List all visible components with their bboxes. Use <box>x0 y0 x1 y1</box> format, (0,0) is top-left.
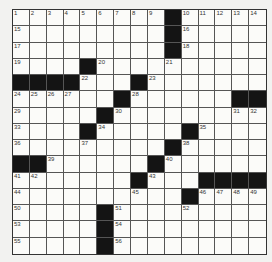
grid-cell[interactable]: 31 <box>232 108 249 124</box>
grid-cell[interactable]: 27 <box>64 91 81 107</box>
grid-cell[interactable]: 47 <box>215 189 232 205</box>
grid-cell[interactable] <box>215 124 232 140</box>
grid-cell[interactable] <box>148 43 165 59</box>
grid-cell[interactable] <box>30 205 47 221</box>
grid-cell[interactable] <box>148 124 165 140</box>
grid-cell[interactable] <box>182 156 199 172</box>
grid-cell[interactable] <box>232 26 249 42</box>
grid-cell[interactable]: 11 <box>199 10 216 26</box>
grid-cell[interactable]: 2 <box>30 10 47 26</box>
grid-cell[interactable] <box>249 75 266 91</box>
grid-cell[interactable]: 1 <box>13 10 30 26</box>
grid-cell[interactable]: 13 <box>232 10 249 26</box>
grid-cell[interactable] <box>114 75 131 91</box>
grid-cell[interactable] <box>47 26 64 42</box>
grid-cell[interactable] <box>97 140 114 156</box>
grid-cell[interactable] <box>47 205 64 221</box>
grid-cell[interactable]: 3 <box>47 10 64 26</box>
grid-cell[interactable]: 44 <box>13 189 30 205</box>
grid-cell[interactable] <box>165 238 182 254</box>
grid-cell[interactable] <box>249 221 266 237</box>
grid-cell[interactable]: 28 <box>131 91 148 107</box>
grid-cell[interactable] <box>131 221 148 237</box>
grid-cell[interactable] <box>64 189 81 205</box>
grid-cell[interactable]: 9 <box>148 10 165 26</box>
grid-cell[interactable] <box>64 205 81 221</box>
grid-cell[interactable] <box>215 156 232 172</box>
grid-cell[interactable] <box>199 238 216 254</box>
grid-cell[interactable]: 51 <box>114 205 131 221</box>
grid-cell[interactable] <box>182 75 199 91</box>
grid-cell[interactable]: 56 <box>114 238 131 254</box>
grid-cell[interactable] <box>30 26 47 42</box>
grid-cell[interactable]: 16 <box>182 26 199 42</box>
grid-cell[interactable]: 42 <box>30 173 47 189</box>
grid-cell[interactable] <box>232 124 249 140</box>
grid-cell[interactable] <box>80 43 97 59</box>
grid-cell[interactable] <box>97 156 114 172</box>
grid-cell[interactable] <box>64 173 81 189</box>
grid-cell[interactable] <box>182 91 199 107</box>
grid-cell[interactable]: 36 <box>13 140 30 156</box>
grid-cell[interactable]: 8 <box>131 10 148 26</box>
grid-cell[interactable] <box>199 75 216 91</box>
grid-cell[interactable] <box>64 221 81 237</box>
grid-cell[interactable]: 10 <box>182 10 199 26</box>
grid-cell[interactable] <box>215 238 232 254</box>
grid-cell[interactable] <box>80 108 97 124</box>
grid-cell[interactable]: 19 <box>13 59 30 75</box>
grid-cell[interactable] <box>131 124 148 140</box>
grid-cell[interactable] <box>249 156 266 172</box>
grid-cell[interactable] <box>97 189 114 205</box>
grid-cell[interactable] <box>249 140 266 156</box>
grid-cell[interactable] <box>249 43 266 59</box>
grid-cell[interactable] <box>97 43 114 59</box>
grid-cell[interactable] <box>131 108 148 124</box>
grid-cell[interactable]: 29 <box>13 108 30 124</box>
grid-cell[interactable] <box>131 59 148 75</box>
grid-cell[interactable]: 45 <box>131 189 148 205</box>
grid-cell[interactable] <box>80 238 97 254</box>
grid-cell[interactable] <box>114 59 131 75</box>
grid-cell[interactable] <box>232 59 249 75</box>
grid-cell[interactable] <box>148 108 165 124</box>
grid-cell[interactable]: 18 <box>182 43 199 59</box>
grid-cell[interactable]: 5 <box>80 10 97 26</box>
grid-cell[interactable] <box>131 43 148 59</box>
grid-cell[interactable] <box>30 124 47 140</box>
grid-cell[interactable]: 17 <box>13 43 30 59</box>
grid-cell[interactable] <box>249 124 266 140</box>
grid-cell[interactable] <box>182 238 199 254</box>
grid-cell[interactable]: 14 <box>249 10 266 26</box>
grid-cell[interactable] <box>47 108 64 124</box>
grid-cell[interactable] <box>47 189 64 205</box>
grid-cell[interactable] <box>30 238 47 254</box>
grid-cell[interactable] <box>232 43 249 59</box>
grid-cell[interactable]: 22 <box>80 75 97 91</box>
grid-cell[interactable]: 43 <box>148 173 165 189</box>
grid-cell[interactable] <box>131 156 148 172</box>
grid-cell[interactable] <box>148 221 165 237</box>
grid-cell[interactable] <box>199 91 216 107</box>
grid-cell[interactable]: 46 <box>199 189 216 205</box>
grid-cell[interactable]: 55 <box>13 238 30 254</box>
grid-cell[interactable] <box>64 108 81 124</box>
grid-cell[interactable] <box>199 108 216 124</box>
grid-cell[interactable] <box>215 43 232 59</box>
grid-cell[interactable] <box>131 26 148 42</box>
grid-cell[interactable]: 53 <box>13 221 30 237</box>
grid-cell[interactable] <box>199 205 216 221</box>
grid-cell[interactable] <box>80 173 97 189</box>
grid-cell[interactable] <box>114 124 131 140</box>
grid-cell[interactable]: 49 <box>249 189 266 205</box>
grid-cell[interactable] <box>232 238 249 254</box>
grid-cell[interactable]: 40 <box>165 156 182 172</box>
grid-cell[interactable] <box>249 238 266 254</box>
grid-cell[interactable] <box>47 140 64 156</box>
grid-cell[interactable] <box>199 140 216 156</box>
grid-cell[interactable] <box>199 43 216 59</box>
grid-cell[interactable] <box>64 140 81 156</box>
grid-cell[interactable] <box>64 43 81 59</box>
grid-cell[interactable] <box>232 140 249 156</box>
grid-cell[interactable] <box>215 91 232 107</box>
